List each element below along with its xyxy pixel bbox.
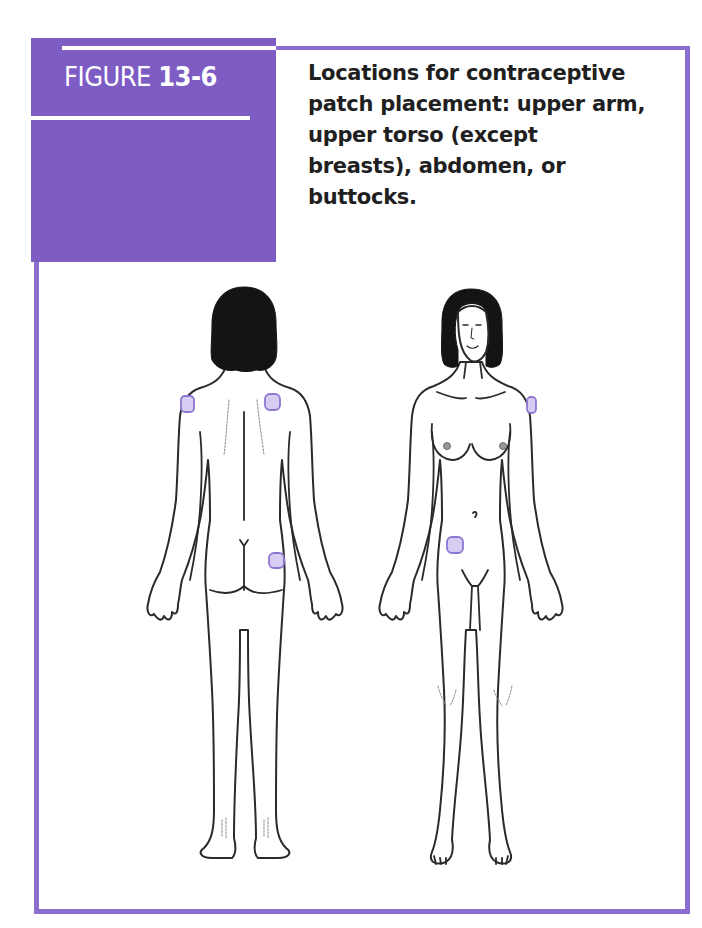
right-nipple	[500, 443, 507, 450]
body-illustration	[0, 0, 702, 928]
patch-buttock	[269, 553, 284, 568]
front-view-figure	[379, 289, 562, 864]
patch-back-upper-arm	[181, 396, 194, 412]
back-hair	[211, 287, 277, 372]
back-view-figure	[147, 287, 342, 858]
patch-front-upper-arm	[527, 397, 536, 413]
left-nipple	[444, 443, 451, 450]
patch-abdomen	[447, 537, 463, 553]
face	[458, 306, 488, 362]
back-body-outline	[147, 366, 342, 858]
patch-back-upper-torso	[265, 394, 280, 410]
